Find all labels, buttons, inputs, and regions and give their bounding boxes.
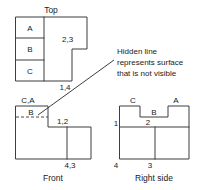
right-view-surface-label-b: B <box>151 108 156 117</box>
right-view-edge-label-1: 1 <box>114 119 119 128</box>
top-view-edge-label-23: 2,3 <box>62 35 74 44</box>
annotation-leader-line <box>38 60 114 115</box>
front-view-corner-label-ca: C,A <box>21 96 35 105</box>
front-view-outline <box>16 106 91 159</box>
right-side-view: C A B 1 2 4 3 Right side <box>114 96 189 183</box>
right-view-edge-label-3: 3 <box>148 161 153 170</box>
right-view-title: Right side <box>135 173 173 183</box>
orthographic-projection-drawing: Top A B C 2,3 1,4 Hidden line represents… <box>0 0 204 190</box>
top-view-cell-label-c: C <box>27 67 33 76</box>
annotation-line-2: represents surface <box>117 58 184 67</box>
front-view-surface-label-b: B <box>28 108 33 117</box>
top-view-cell-label-a: A <box>27 24 33 33</box>
right-view-top-label-c: C <box>130 96 136 105</box>
front-view: C,A B 1,2 4,3 Front <box>16 96 91 183</box>
top-view: Top A B C 2,3 1,4 <box>16 5 87 92</box>
top-view-cell-label-b: B <box>27 45 32 54</box>
top-view-title: Top <box>44 5 58 15</box>
right-view-edge-label-4: 4 <box>114 161 119 170</box>
top-view-edge-label-14: 1,4 <box>59 83 71 92</box>
right-view-edge-label-2: 2 <box>146 118 151 127</box>
right-view-top-label-a: A <box>173 96 179 105</box>
front-view-title: Front <box>43 173 63 183</box>
front-view-edge-label-43: 4,3 <box>64 161 76 170</box>
annotation-line-1: Hidden line <box>117 47 158 56</box>
annotation-line-3: that is not visible <box>117 69 177 78</box>
front-view-edge-label-12: 1,2 <box>57 117 69 126</box>
